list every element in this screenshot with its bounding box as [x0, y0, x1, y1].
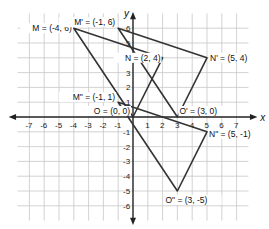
- x-tick-label: -6: [40, 121, 48, 130]
- vertex-label-op: O' = (3, 0): [179, 106, 217, 116]
- axes: xy: [9, 8, 267, 225]
- x-tick-label: 2: [160, 121, 165, 130]
- coordinate-plane: xy -7-6-5-4-3-2-11234567654321-1-2-3-4-5…: [0, 0, 269, 229]
- x-tick-label: -1: [114, 121, 122, 130]
- vertex-label-n: N = (2, 4): [125, 53, 161, 63]
- y-tick-label: -2: [123, 143, 131, 152]
- x-axis-left-arrow-icon: [9, 114, 16, 120]
- y-tick-label: -5: [123, 187, 131, 196]
- vertex-label-o: O = (0, 0): [94, 106, 130, 116]
- vertex-label-mp: M' = (-1, 6): [74, 17, 115, 27]
- y-tick-label: -6: [123, 202, 131, 211]
- x-tick-label: -4: [70, 121, 78, 130]
- x-tick-label: 1: [145, 121, 150, 130]
- x-tick-label: -7: [25, 121, 33, 130]
- x-tick-label: -2: [99, 121, 107, 130]
- y-tick-label: -1: [123, 128, 131, 137]
- y-axis-label: y: [123, 8, 130, 19]
- y-tick-label: 3: [126, 69, 131, 78]
- x-axis-label: x: [259, 112, 266, 123]
- x-tick-label: -5: [55, 121, 63, 130]
- vertex-label-np: N' = (5, 4): [210, 53, 247, 63]
- vertex-label-npp: N" = (5, -1): [209, 129, 251, 139]
- x-axis-right-arrow-icon: [250, 114, 257, 120]
- y-axis-down-arrow-icon: [130, 218, 136, 225]
- y-axis-up-arrow-icon: [130, 12, 136, 19]
- vertex-label-opp: O" = (3, -5): [165, 195, 207, 205]
- y-tick-label: -4: [123, 172, 131, 181]
- x-tick-label: -3: [85, 121, 93, 130]
- y-tick-label: 2: [126, 83, 131, 92]
- vertex-label-mpp: M" = (-1, 1): [73, 92, 116, 102]
- y-tick-label: -3: [123, 157, 131, 166]
